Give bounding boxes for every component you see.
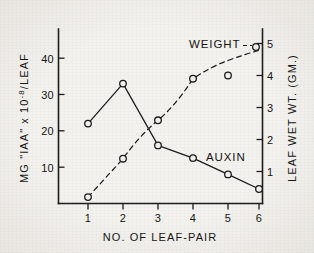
series-auxin (85, 80, 263, 192)
x-ticklabel-6: 6 (256, 212, 262, 224)
right-ticklabel-2: 2 (267, 134, 273, 146)
series-weight-point-1 (85, 194, 92, 201)
right-axis-ticks (257, 44, 263, 172)
chart-canvas: 10 20 30 40 1 2 3 4 5 (0, 0, 314, 253)
left-ticklabel-40: 40 (41, 53, 54, 65)
left-axis-ticks (59, 58, 65, 167)
right-ticklabel-3: 3 (267, 102, 273, 114)
x-ticklabel-5: 5 (225, 212, 231, 224)
left-ticklabel-30: 30 (41, 89, 54, 101)
series-weight-point-4 (190, 75, 197, 82)
x-axis-ticks (88, 204, 259, 210)
right-ticklabel-1: 1 (267, 166, 273, 178)
x-ticklabel-2: 2 (120, 212, 126, 224)
x-ticklabel-4: 4 (190, 212, 196, 224)
svg-text:MG "IAA" x 10-8/LEAF: MG "IAA" x 10-8/LEAF (17, 53, 30, 183)
chart-figure: 10 20 30 40 1 2 3 4 5 (0, 0, 314, 253)
series-auxin-line (88, 84, 259, 189)
axis-frame (59, 29, 263, 204)
left-axis-title-prefix: MG "IAA" x 10 (18, 98, 30, 182)
left-axis-ticklabels: 10 20 30 40 (41, 53, 54, 174)
series-label-weight: WEIGHT (189, 38, 240, 50)
series-weight-point-2 (120, 155, 127, 162)
series-label-auxin: AUXIN (206, 151, 246, 163)
series-weight-point-3 (155, 117, 162, 124)
series-auxin-point-4 (190, 155, 197, 162)
series-auxin-point-3 (155, 142, 162, 149)
left-ticklabel-20: 20 (41, 125, 54, 137)
series-weight-point-6 (253, 44, 260, 51)
series-weight-line (88, 50, 259, 197)
right-axis-ticklabels: 1 2 3 4 5 (267, 38, 273, 178)
series-auxin-point-2 (120, 80, 127, 87)
right-axis-title: LEAF WET WT. (GM.) (286, 54, 298, 182)
right-axis-title-text: LEAF WET WT. (GM.) (286, 54, 298, 182)
left-axis-title-suffix: /LEAF (18, 53, 30, 89)
x-axis-ticklabels: 1 2 3 4 5 6 (85, 212, 262, 224)
right-ticklabel-5: 5 (267, 38, 273, 50)
left-axis-title: MG "IAA" x 10-8/LEAF (17, 53, 30, 183)
series-auxin-point-6 (256, 186, 263, 193)
left-ticklabel-10: 10 (41, 162, 54, 174)
series-auxin-point-5 (225, 171, 232, 178)
series-auxin-point-1 (85, 120, 92, 127)
x-ticklabel-1: 1 (85, 212, 91, 224)
x-axis-title: NO. OF LEAF-PAIR (103, 231, 218, 243)
series-weight-point-5 (225, 72, 232, 79)
x-ticklabel-3: 3 (155, 212, 161, 224)
right-ticklabel-4: 4 (267, 70, 273, 82)
left-axis-title-exponent: -8 (17, 89, 26, 98)
